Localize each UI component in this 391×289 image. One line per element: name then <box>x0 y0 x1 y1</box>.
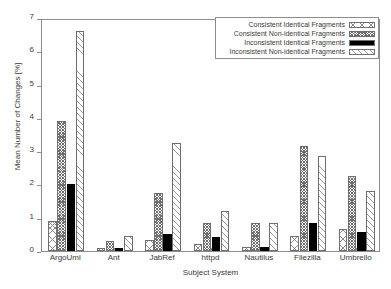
bar <box>172 143 181 251</box>
bar <box>48 221 57 251</box>
bar <box>269 223 278 251</box>
y-axis-tick-label: 0 <box>30 246 34 254</box>
legend-swatch <box>349 49 375 55</box>
y-axis-tick-label: 6 <box>30 46 34 54</box>
plot-area: Consistent Identical FragmentsConsistent… <box>41 19 380 252</box>
x-axis-tick-label: Nautilus <box>244 253 273 263</box>
bar <box>194 244 203 251</box>
x-axis-tick-mark <box>259 248 260 252</box>
legend-item-label: Inconsistent Non-identical Fragments <box>229 48 345 56</box>
x-axis-tick-mark <box>356 248 357 252</box>
y-axis-tick-label: 1 <box>30 213 34 221</box>
x-axis-tick-label: Filezilla <box>294 253 321 263</box>
x-axis: ArgoUmlAntJabRefhttpdNautilusFilezillaUm… <box>41 253 380 267</box>
bar <box>260 247 269 251</box>
legend-swatch <box>349 40 375 46</box>
x-axis-tick-mark <box>114 248 115 252</box>
bar <box>366 191 375 251</box>
bar-group <box>145 20 181 251</box>
bar <box>124 236 133 251</box>
bar <box>242 247 251 251</box>
y-axis-tick-label: 3 <box>30 146 34 154</box>
bar <box>221 211 230 251</box>
y-axis-tick-label: 2 <box>30 179 34 187</box>
bar <box>348 176 357 251</box>
bar <box>290 236 299 251</box>
legend-item: Inconsistent Identical Fragments <box>218 38 375 47</box>
y-axis-tick-label: 7 <box>30 13 34 21</box>
chart-legend: Consistent Identical FragmentsConsistent… <box>215 17 379 59</box>
bar <box>97 248 106 251</box>
bar <box>145 240 154 251</box>
x-axis-tick-label: ArgoUml <box>50 253 81 263</box>
legend-item: Inconsistent Non-identical Fragments <box>218 47 375 56</box>
x-axis-tick-label: Umbrello <box>340 253 372 263</box>
x-axis-tick-label: httpd <box>202 253 220 263</box>
bar-chart: Mean Number of Changes [%] 01234567 Cons… <box>0 0 391 289</box>
legend-swatch <box>349 22 375 28</box>
bar <box>339 229 348 251</box>
bar <box>163 234 172 251</box>
legend-swatch <box>349 31 375 37</box>
bar <box>57 121 66 251</box>
bar <box>76 31 85 251</box>
x-axis-title: Subject System <box>41 268 380 278</box>
bar <box>67 184 76 251</box>
x-axis-tick-label: JabRef <box>149 253 174 263</box>
y-axis-tick-label: 5 <box>30 80 34 88</box>
legend-item-label: Consistent Non-identical Fragments <box>234 30 345 38</box>
x-axis-tick-mark <box>65 248 66 252</box>
legend-item: Consistent Non-identical Fragments <box>218 29 375 38</box>
legend-item-label: Consistent Identical Fragments <box>249 21 346 29</box>
legend-item: Consistent Identical Fragments <box>218 20 375 29</box>
x-axis-tick-mark <box>307 248 308 252</box>
bar-group <box>97 20 133 251</box>
y-axis: 01234567 <box>0 19 41 252</box>
bar <box>154 193 163 251</box>
bar <box>309 223 318 251</box>
legend-item-label: Inconsistent Identical Fragments <box>244 39 345 47</box>
x-axis-tick-mark <box>211 248 212 252</box>
bar <box>251 223 260 251</box>
bar <box>212 237 221 251</box>
bar-group <box>48 20 84 251</box>
bar <box>203 223 212 251</box>
bar <box>357 232 366 251</box>
bar <box>318 156 327 251</box>
y-axis-tick-label: 4 <box>30 113 34 121</box>
bar <box>300 146 309 251</box>
x-axis-tick-mark <box>162 248 163 252</box>
bar <box>115 248 124 251</box>
x-axis-tick-label: Ant <box>108 253 120 263</box>
